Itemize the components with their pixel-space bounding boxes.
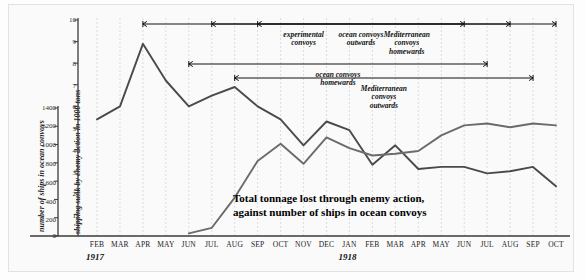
chart-page: number of ships in ocean convoys shippin…	[0, 0, 585, 280]
annotation-mediterranean-convoys-outwards: Mediterraneanconvoysoutwards	[324, 85, 444, 110]
year-label: 1918	[338, 252, 356, 262]
year-label: 1917	[86, 252, 104, 262]
month-label: OCT	[542, 240, 570, 249]
chart-caption: Total tonnage lost through enemy action,…	[233, 192, 427, 220]
annotation-line: outwards	[324, 102, 444, 110]
caption-line-2: against number of ships in ocean convoys	[233, 206, 427, 220]
annotation-line: homewards	[347, 48, 467, 56]
caption-line-1: Total tonnage lost through enemy action,	[233, 192, 427, 206]
annotation-mediterranean-convoys-homewards: Mediterraneanconvoyshomewards	[347, 31, 467, 56]
